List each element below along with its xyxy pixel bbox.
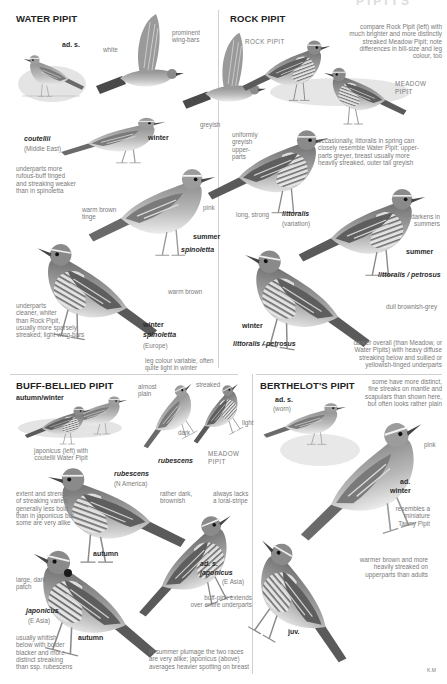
- label-warmer-brown: warmer brown and more heavily streaked o…: [340, 556, 428, 578]
- berthelots-juv-illustration: [0, 0, 447, 684]
- artist-signature: K.M: [427, 667, 436, 674]
- label-juv: juv.: [288, 628, 300, 636]
